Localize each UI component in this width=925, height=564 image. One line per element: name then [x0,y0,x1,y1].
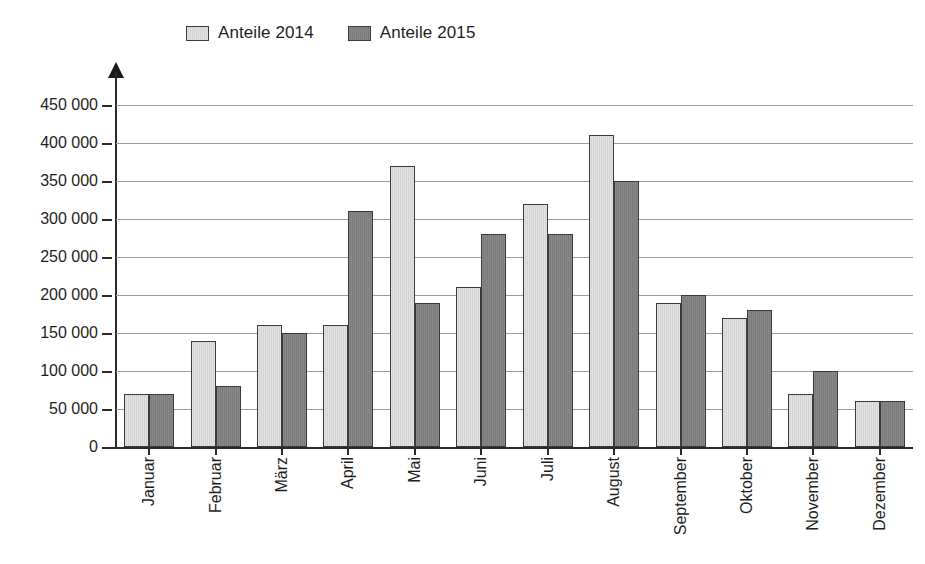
x-axis-label-mai: Mai [406,457,424,483]
bar-august-anteile-2015 [614,181,639,447]
y-axis-tick-label: 350 000 [40,172,98,190]
y-axis-tick [102,257,112,259]
bar-januar-anteile-2014 [124,394,149,447]
x-label-cell: Dezember [847,455,913,560]
y-axis-tick-label: 50 000 [49,400,98,418]
bar-juli-anteile-2014 [523,204,548,447]
bar-september-anteile-2015 [681,295,706,447]
bar-juli-anteile-2015 [548,234,573,447]
y-axis-tick [102,181,112,183]
x-label-cell: September [647,455,713,560]
x-axis-tick [613,447,615,455]
x-axis-category-labels: JanuarFebruarMärzAprilMaiJuniJuliAugustS… [116,455,913,560]
y-axis-labels: 050 000100 000150 000200 000250 000300 0… [0,105,98,447]
bar-september-anteile-2014 [656,303,681,447]
x-axis-label-oktober: Oktober [738,457,756,514]
x-label-cell: Februar [182,455,248,560]
y-axis-tick-label: 250 000 [40,248,98,266]
y-axis-tick [102,105,112,107]
y-axis-tick-label: 150 000 [40,324,98,342]
bar-group-januar [116,105,182,447]
bar-group-dezember [847,105,913,447]
x-axis-label-dezember: Dezember [871,457,889,531]
chart-legend: Anteile 2014 Anteile 2015 [186,20,475,46]
bar-groups [116,105,913,447]
bar-februar-anteile-2015 [216,386,241,447]
legend-item-anteile-2015: Anteile 2015 [348,23,476,43]
bar-group-april [315,105,381,447]
x-axis-tick [148,447,150,455]
x-axis-tick [414,447,416,455]
bar-mai-anteile-2014 [390,166,415,447]
x-axis-label-januar: Januar [140,457,158,506]
bar-group-märz [249,105,315,447]
bar-group-september [647,105,713,447]
legend-label-anteile-2015: Anteile 2015 [380,23,476,43]
x-axis-label-april: April [339,457,357,489]
bar-märz-anteile-2015 [282,333,307,447]
plot-area [116,105,913,447]
x-axis-line [108,447,913,449]
bar-oktober-anteile-2015 [747,310,772,447]
bar-august-anteile-2014 [589,135,614,447]
bar-juni-anteile-2014 [456,287,481,447]
y-axis-tick-label: 100 000 [40,362,98,380]
y-axis-tick-label: 400 000 [40,134,98,152]
x-label-cell: Oktober [714,455,780,560]
legend-item-anteile-2014: Anteile 2014 [186,23,314,43]
x-label-cell: Juli [515,455,581,560]
bar-märz-anteile-2014 [257,325,282,447]
bar-group-oktober [714,105,780,447]
x-label-cell: Januar [116,455,182,560]
y-axis-tick-label: 0 [89,438,98,456]
x-axis-tick [281,447,283,455]
bar-group-juni [448,105,514,447]
legend-swatch-light-icon [186,26,209,41]
x-label-cell: November [780,455,846,560]
x-label-cell: Juni [448,455,514,560]
x-axis-tick [547,447,549,455]
y-axis-tick-label: 200 000 [40,286,98,304]
y-axis-tick [102,371,112,373]
y-axis-tick-label: 450 000 [40,96,98,114]
bar-dezember-anteile-2015 [880,401,905,447]
x-axis-tick [215,447,217,455]
legend-label-anteile-2014: Anteile 2014 [218,23,314,43]
bar-group-november [780,105,846,447]
bar-oktober-anteile-2014 [722,318,747,447]
x-axis-label-märz: März [273,457,291,493]
y-axis-tick [102,219,112,221]
x-axis-tick [746,447,748,455]
y-axis-tick [102,409,112,411]
x-label-cell: August [581,455,647,560]
bar-november-anteile-2015 [813,371,838,447]
x-label-cell: März [249,455,315,560]
x-axis-label-november: November [804,457,822,531]
x-axis-label-februar: Februar [207,457,225,513]
x-label-cell: Mai [382,455,448,560]
x-axis-tick [812,447,814,455]
bar-april-anteile-2015 [348,211,373,447]
bar-april-anteile-2014 [323,325,348,447]
x-axis-label-september: September [672,457,690,535]
x-axis-tick [680,447,682,455]
bar-group-februar [182,105,248,447]
y-axis-tick-label: 300 000 [40,210,98,228]
bar-group-mai [382,105,448,447]
y-axis-tick [102,143,112,145]
x-axis-label-juni: Juni [472,457,490,486]
bar-group-august [581,105,647,447]
x-axis-tick [879,447,881,455]
bar-group-juli [515,105,581,447]
x-axis-label-august: August [605,457,623,507]
bar-november-anteile-2014 [788,394,813,447]
x-axis-label-juli: Juli [539,457,557,481]
y-axis-tick [102,295,112,297]
bar-chart: Anteile 2014 Anteile 2015 050 000100 000… [0,0,925,564]
x-label-cell: April [315,455,381,560]
bar-mai-anteile-2015 [415,303,440,447]
bar-dezember-anteile-2014 [855,401,880,447]
legend-swatch-dark-icon [348,26,371,41]
x-axis-tick [347,447,349,455]
bar-juni-anteile-2015 [481,234,506,447]
